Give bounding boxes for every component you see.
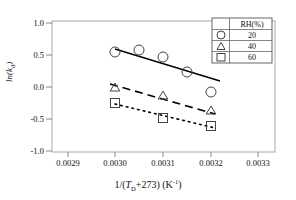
x-axis-label-close: ) xyxy=(178,179,181,190)
x-axis-label: 1/(TD+273) (K-1) xyxy=(0,178,296,192)
legend-label-60: 60 xyxy=(233,53,271,62)
chart-figure: RH(%) 20 40 60 1.0 0.5 0.0 -0.5 -1.0 0.0… xyxy=(0,0,296,200)
x-tick-label-1: 0.0030 xyxy=(90,158,140,168)
y-axis-label: ln(kd) xyxy=(4,44,16,100)
legend-label-40: 40 xyxy=(233,42,271,51)
x-tick-label-0: 0.0029 xyxy=(43,158,93,168)
x-tick-label-4: 0.0033 xyxy=(233,158,283,168)
x-axis-label-mid: +273) (K xyxy=(136,179,173,190)
y-tick-marks xyxy=(46,23,52,151)
x-tick-marks xyxy=(68,152,258,157)
x-tick-label-3: 0.0032 xyxy=(186,158,236,168)
y-tick-label-0: 1.0 xyxy=(18,18,44,28)
y-axis-label-close: ) xyxy=(4,62,14,65)
x-axis-label-pre: 1/( xyxy=(114,179,125,190)
y-tick-label-4: -1.0 xyxy=(16,146,44,156)
scatter-plot-svg xyxy=(0,0,296,200)
y-tick-label-3: -0.5 xyxy=(16,114,44,124)
legend-header: RH(%) xyxy=(233,20,271,29)
legend-label-20: 20 xyxy=(233,31,271,40)
y-tick-label-2: 0.0 xyxy=(18,82,44,92)
y-tick-label-1: 0.5 xyxy=(18,50,44,60)
x-tick-label-2: 0.0031 xyxy=(138,158,188,168)
y-axis-label-main: ln(k xyxy=(4,68,14,82)
y-axis-label-sub: d xyxy=(9,65,16,68)
